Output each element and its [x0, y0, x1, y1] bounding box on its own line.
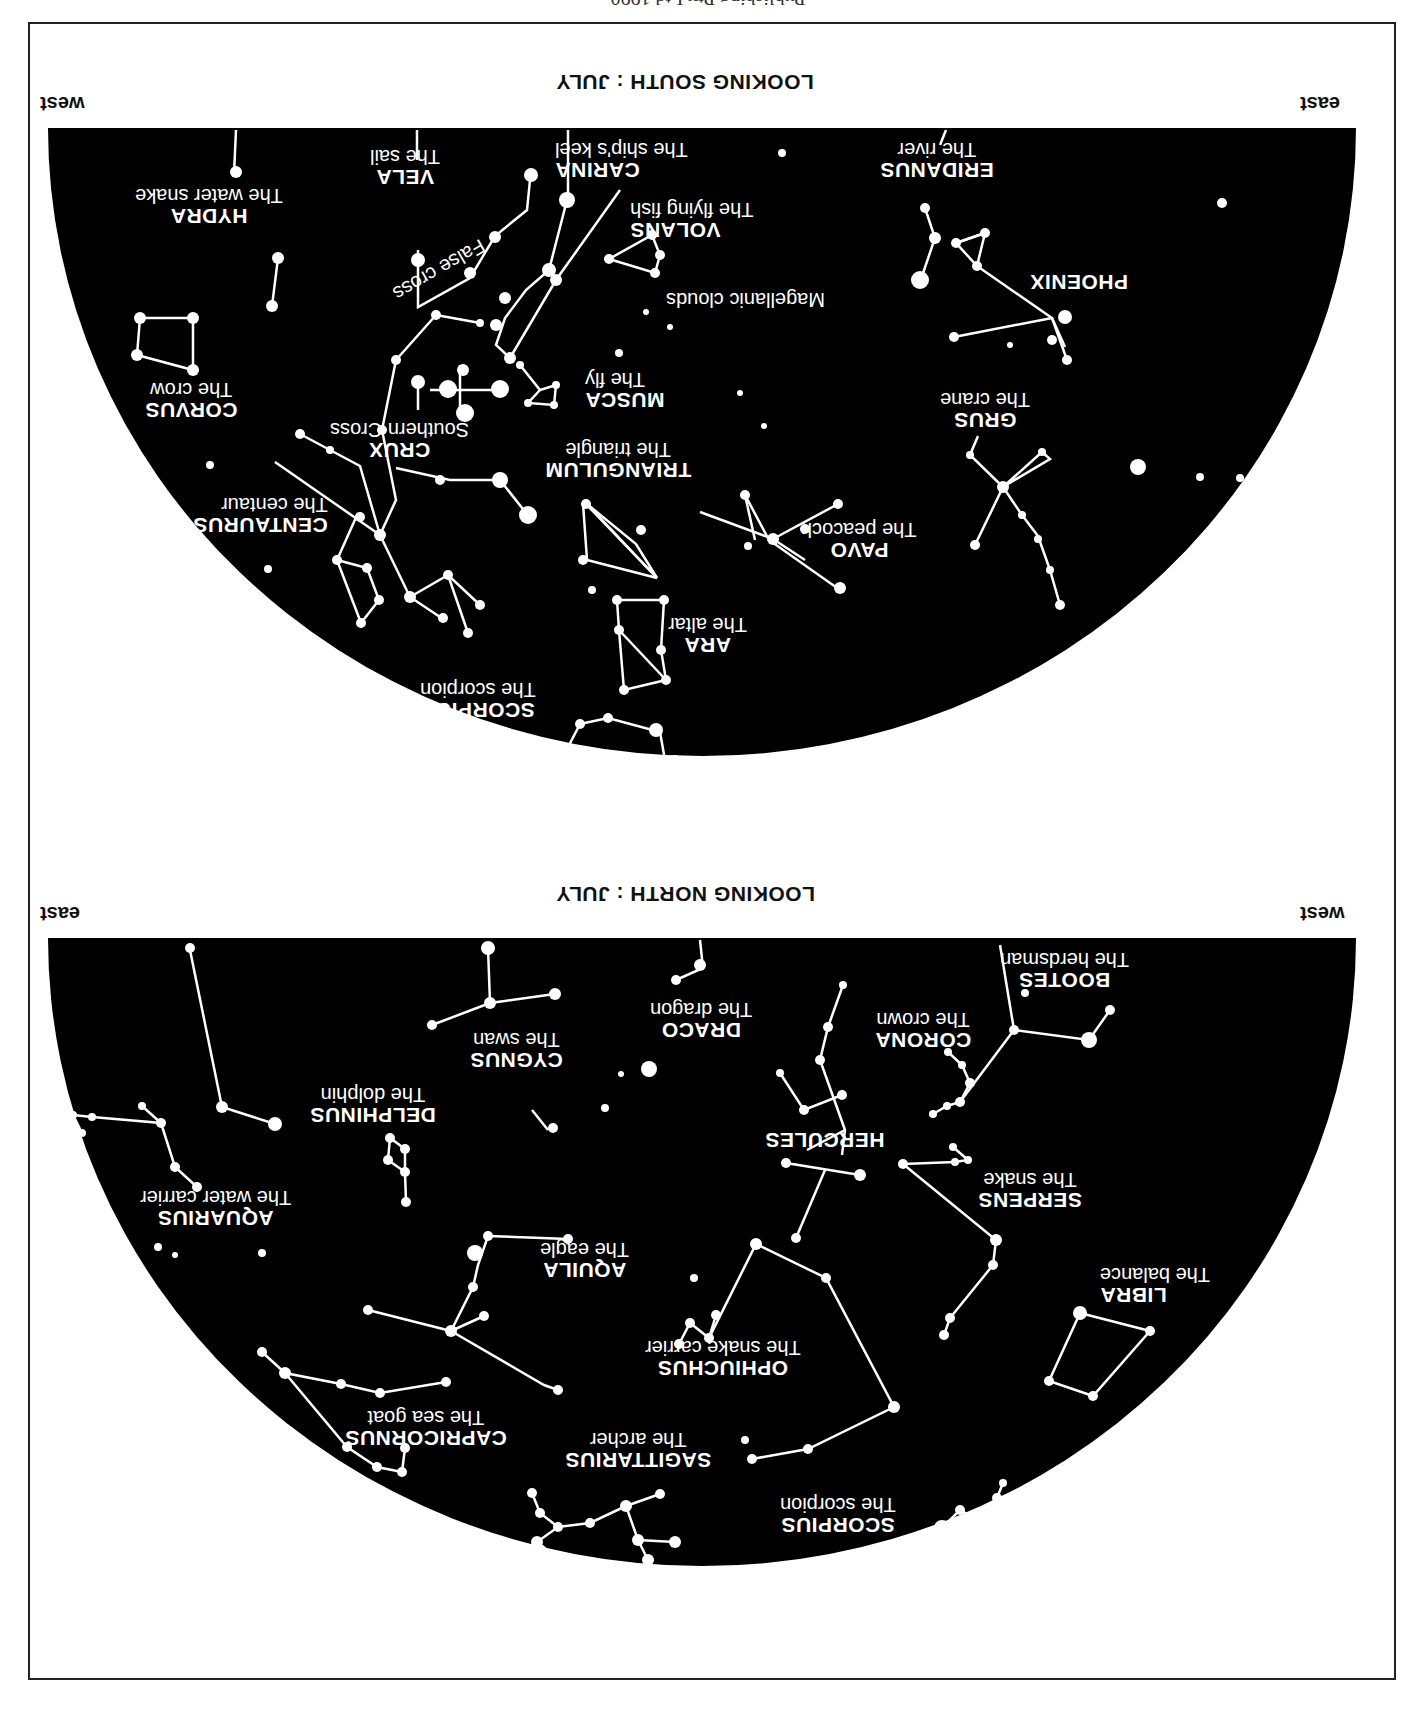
label-aquila: AQUILAThe eagle [540, 1240, 629, 1281]
label-corvus: CORVUSThe crow [145, 380, 237, 421]
label-scorpius-north: SCORPIUSThe scorpion [780, 1495, 896, 1536]
north-east-label: east [40, 902, 80, 925]
label-grus: GRUSThe crane [940, 390, 1030, 431]
label-magellanic-clouds: Magellanic clouds [666, 290, 825, 310]
label-vela: VELAThe sail [370, 147, 440, 188]
label-libra: LIBRAThe balance [1100, 1265, 1210, 1306]
label-ophiuchus: OPHIUCHUSThe snake carrier [645, 1338, 801, 1379]
label-triangulum: TRIANGULUMThe triangle [545, 440, 691, 481]
north-chart-title: LOOKING NORTH : JULY [556, 882, 815, 906]
south-west-label: west [40, 92, 84, 115]
north-west-label: west [1300, 902, 1344, 925]
south-east-label: east [1300, 92, 1340, 115]
label-serpens: SERPENSThe snake [978, 1170, 1082, 1211]
label-sagittarius: SAGITTARIUSThe archer [565, 1430, 711, 1471]
star-charts: LOOKING SOUTH : JULY east west HYDRAThe … [0, 0, 1416, 1709]
label-aquarius: AQUARIUSThe water carrier [140, 1188, 291, 1229]
label-phoenix: PHOENIX [1030, 272, 1128, 293]
label-bootes: BOOTESThe herdsman [1000, 950, 1129, 991]
label-volans: VOLANSThe flying fish [630, 200, 753, 241]
label-corona: CORONAThe crown [875, 1010, 971, 1051]
label-delphinus: DELPHINUSThe dolphin [310, 1085, 436, 1126]
label-ara: ARAThe altar [668, 615, 747, 656]
label-centaurus: CENTAURUSThe centaur [193, 495, 328, 536]
label-eridanus: ERIDANUSThe river [880, 140, 994, 181]
label-pavo: PAVOThe peacock [802, 520, 917, 561]
label-hydra: HYDRAThe water snake [135, 186, 283, 227]
label-musca: MUSCAThe fly [585, 370, 665, 411]
label-cygnus: CYGNUSThe swan [470, 1030, 563, 1071]
label-capricornus: CAPRICORNUSThe sea goat [345, 1408, 507, 1449]
label-hercules: HERCULES [765, 1130, 885, 1151]
label-draco: DRACOThe dragon [650, 1000, 752, 1041]
label-scorpius-south: SCORPIUSThe scorpion [420, 680, 536, 721]
label-crux: CRUXSouthern Cross [330, 420, 469, 461]
label-carina: CARINAThe ship's keel [555, 140, 688, 181]
south-chart-title: LOOKING SOUTH : JULY [556, 70, 814, 94]
